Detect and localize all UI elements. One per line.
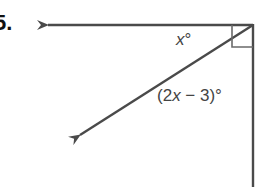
angle-diagram bbox=[0, 0, 264, 187]
angle-label-x: x° bbox=[176, 31, 191, 48]
angle-label-2x-minus-3: (2x − 3)° bbox=[157, 87, 222, 104]
diagonal-ray bbox=[80, 25, 253, 135]
